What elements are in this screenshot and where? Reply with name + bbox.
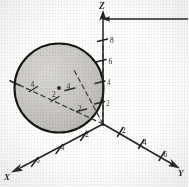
z-tick-label-4: 4 [107,78,111,87]
coordinate-axes-diagram: Z 8 6 4 2 Y 2 4 6 X 2 4 6 4 2 2 4 [0,0,188,187]
y-tick-label-2: 2 [122,126,126,135]
figure-canvas: Z 8 6 4 2 Y 2 4 6 X 2 4 6 4 2 2 4 [0,0,188,187]
x-tick-label-6: 6 [36,156,40,165]
z-tick-label-6: 6 [109,57,113,66]
z-axis [95,10,189,126]
y-axis-label: Y [178,168,185,178]
z-tick-label-2: 2 [106,99,110,108]
y-tick-label-4: 4 [143,138,147,147]
y-axis [103,124,180,169]
x-axis-label: X [3,172,11,182]
z-tick-label-8: 8 [110,36,114,45]
y-tick-label-6: 6 [164,150,168,159]
x-tick-label-4: 4 [61,143,65,152]
x-tick-label-2: 2 [85,130,89,139]
z-axis-label: Z [98,1,105,11]
